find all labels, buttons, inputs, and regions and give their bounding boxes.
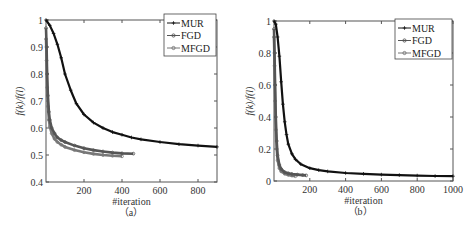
marker-plus [215,145,219,149]
x-axis-label: #iteration [112,196,150,207]
figure: 0.40.50.60.70.80.91200400600800#iteratio… [0,0,471,228]
x-tick-label: 800 [191,185,206,196]
y-tick-label: 0 [266,176,271,187]
y-tick-label: 0.5 [31,150,44,161]
y-tick-label: 0.6 [31,123,44,134]
legend-label-mfgd: MFGD [412,48,441,59]
legend: MURFGDMFGD [164,14,216,56]
legend-label-mur: MUR [181,18,204,29]
y-tick-label: 0.8 [259,48,272,59]
marker-plus [196,144,200,148]
marker-plus [177,142,181,146]
x-tick-label: 200 [77,185,92,196]
x-tick-label: 800 [410,184,425,195]
marker-plus [398,173,402,177]
x-axis-label: #iteration [344,195,382,206]
y-tick-label: 0.2 [259,144,272,155]
marker-plus [362,172,366,176]
chart-panel-b: 00.20.40.60.812004006008001000#iteration… [244,16,463,218]
marker-plus [279,80,283,84]
y-tick-label: 0.4 [259,112,272,123]
y-tick-label: 0.6 [259,80,272,91]
legend: MURFGDMFGD [395,19,452,59]
y-tick-label: 0.8 [31,69,44,80]
x-tick-label: 600 [374,184,389,195]
marker-plus [281,102,285,106]
marker-plus [451,174,455,178]
y-tick-label: 1 [266,16,271,27]
y-tick-label: 0.7 [31,96,44,107]
x-tick-label: 1000 [443,184,463,195]
marker-plus [380,173,384,177]
y-tick-label: 1 [38,15,43,26]
y-axis-label: f(k)/f(l) [244,86,256,116]
x-tick-label: 600 [153,185,168,196]
panel-caption: （b） [348,206,373,217]
y-tick-label: 0.4 [31,177,44,188]
chart-panel-a: 0.40.50.60.70.80.91200400600800#iteratio… [14,14,219,218]
marker-plus [344,171,348,175]
legend-label-fgd: FGD [412,35,432,46]
y-axis-label: f(k)/f(l) [14,86,26,116]
marker-plus [433,174,437,178]
marker-plus [278,54,282,58]
y-tick-label: 0.9 [31,42,44,53]
legend-label-mur: MUR [412,23,435,34]
marker-plus [415,174,419,178]
legend-label-fgd: FGD [181,30,201,41]
panel-caption: （a） [119,207,143,218]
x-tick-label: 400 [115,185,130,196]
legend-label-mfgd: MFGD [181,43,210,54]
x-tick-label: 200 [302,184,317,195]
x-tick-label: 400 [338,184,353,195]
